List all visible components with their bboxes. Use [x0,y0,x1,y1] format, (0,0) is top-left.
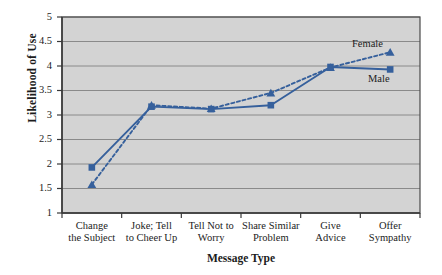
y-tick-label: 3 [18,110,52,121]
x-tick-label: Share SimilarProblem [237,220,305,243]
x-tick-label-line: Tell Not to [177,220,245,232]
y-tick-label: 1 [18,208,52,219]
marker-square-male-3 [268,102,275,109]
line-chart: Likelihood of Use Message Type 11.522.53… [0,0,442,275]
x-tick-label-line: to Cheer Up [118,232,186,244]
y-tick-label: 2 [18,159,52,170]
x-axis-title: Message Type [62,252,420,264]
x-tick-label-line: the Subject [58,232,126,244]
x-tick-label: Tell Not toWorry [177,220,245,243]
y-tick-label: 4 [18,61,52,72]
x-tick-label: GiveAdvice [297,220,365,243]
x-tick-label-line: Share Similar [237,220,305,232]
x-tick-label-line: Change [58,220,126,232]
y-tick-label: 2.5 [18,134,52,145]
x-tick-label: Joke; Tellto Cheer Up [118,220,186,243]
marker-square-male-5 [387,66,394,73]
x-tick-label-line: Advice [297,232,365,244]
x-tick-label: Changethe Subject [58,220,126,243]
series-label-male: Male [368,73,390,84]
x-tick-label-line: Joke; Tell [118,220,186,232]
x-tick-label-line: Give [297,220,365,232]
x-tick-label-line: Problem [237,232,305,244]
y-tick-label: 5 [18,12,52,23]
x-tick-label-line: Offer [356,220,424,232]
y-tick-label: 4.5 [18,36,52,47]
marker-square-male-0 [89,164,96,171]
series-label-female: Female [352,38,383,49]
y-tick-label: 1.5 [18,183,52,194]
x-tick-label-line: Sympathy [356,232,424,244]
x-tick-label-line: Worry [177,232,245,244]
x-tick-label: OfferSympathy [356,220,424,243]
y-tick-label: 3.5 [18,85,52,96]
